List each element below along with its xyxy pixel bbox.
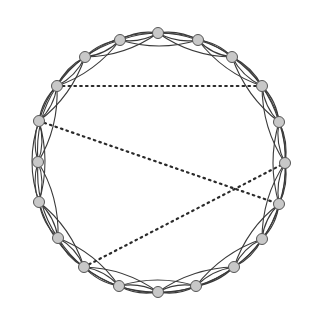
network-node <box>274 199 285 210</box>
network-node <box>153 287 164 298</box>
network-node <box>227 52 238 63</box>
lattice-edge <box>57 57 85 86</box>
lattice-edge <box>232 57 262 86</box>
network-node <box>274 117 285 128</box>
lattice-edge <box>234 204 279 267</box>
network-node <box>34 116 45 127</box>
network-node <box>280 158 291 169</box>
lattice-edge <box>39 202 58 238</box>
network-node <box>115 35 126 46</box>
network-node <box>52 81 63 92</box>
network-node <box>153 28 164 39</box>
network-node <box>53 233 64 244</box>
lattice-edge <box>198 40 262 86</box>
lattice-edge <box>196 267 234 286</box>
shortcut-edges <box>39 86 285 267</box>
lattice-edge <box>58 238 119 286</box>
network-node <box>193 35 204 46</box>
lattice-edge <box>58 238 119 286</box>
network-node <box>34 197 45 208</box>
lattice-edge <box>196 239 262 286</box>
network-node <box>33 157 44 168</box>
shortcut-edge <box>39 121 279 204</box>
lattice-edge <box>57 57 85 86</box>
lattice-edge <box>196 239 262 286</box>
network-node <box>257 81 268 92</box>
lattice-edge <box>57 40 120 86</box>
ring-lattice-diagram <box>0 0 316 321</box>
lattice-edge <box>196 267 234 286</box>
network-node <box>79 262 90 273</box>
lattice-edge <box>57 40 120 86</box>
lattice-edge <box>234 204 279 267</box>
lattice-edge <box>39 202 58 238</box>
network-node <box>257 234 268 245</box>
lattice-edge <box>232 57 262 86</box>
lattice-edge <box>198 40 262 86</box>
network-node <box>80 52 91 63</box>
network-node <box>114 281 125 292</box>
lattice-edge <box>232 57 279 122</box>
network-node <box>191 281 202 292</box>
lattice-edge <box>232 57 279 122</box>
network-node <box>229 262 240 273</box>
